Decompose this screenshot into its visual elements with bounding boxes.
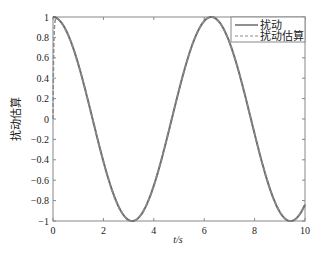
x-tick-label: 10 xyxy=(300,225,310,236)
y-tick-label: −0.6 xyxy=(31,175,49,186)
legend-label-estimate: 扰动估算 xyxy=(260,29,304,43)
chart: 0246810 10.80.60.40.20−0.2−0.4−0.6−0.8−1… xyxy=(0,0,324,257)
y-tick-label: −0.8 xyxy=(31,195,49,206)
x-tick-label: 6 xyxy=(202,225,207,236)
y-tick-label: −0.4 xyxy=(31,154,49,165)
x-tick-label: 4 xyxy=(151,225,156,236)
y-tick-label: 0.4 xyxy=(37,73,50,84)
y-tick-label: 0.6 xyxy=(37,52,50,63)
x-tick-label: 0 xyxy=(51,225,56,236)
y-tick-label: 0.8 xyxy=(37,32,50,43)
y-tick-label: 1 xyxy=(44,12,49,23)
y-tick-label: 0 xyxy=(44,114,49,125)
x-tick-label: 8 xyxy=(252,225,257,236)
y-tick-label: 0.2 xyxy=(37,93,50,104)
y-tick-label: −1 xyxy=(38,216,49,227)
plot-area xyxy=(53,17,305,221)
y-tick-label: −0.2 xyxy=(31,134,49,145)
x-axis-label: t/s xyxy=(173,234,183,245)
legend: 扰动 扰动估算 xyxy=(231,17,305,43)
y-axis-label: 扰动估算 xyxy=(9,97,23,141)
x-tick-label: 2 xyxy=(101,225,106,236)
